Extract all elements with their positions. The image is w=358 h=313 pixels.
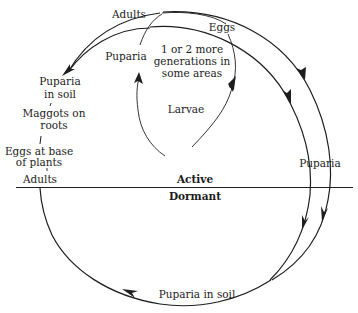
label-puparia-right: Puparia [299,157,340,169]
life-cycle-diagram: Active Dormant Adults Eggs Puparia Larva… [0,0,358,313]
label-puparia-in-soil-bottom: Puparia in soil [159,288,236,300]
active-label: Active [176,173,213,185]
label-eggs-at-base-2: of plants [16,156,62,168]
arrow-head-icon [296,67,306,80]
label-maggots-on-roots-1: Maggots on [23,107,86,119]
connector-tick [50,103,51,106]
label-adults-top: Adults [111,8,146,20]
label-eggs: Eggs [209,21,236,33]
inner-cycle-arc-larvae-to-puparia [137,78,165,156]
arrow-head-icon [228,76,236,92]
label-adults-left: Adults [22,173,57,185]
dormant-return-arc [40,188,271,306]
arrow-head-icon [321,206,328,222]
label-puparia-inner: Puparia [105,50,146,62]
label-larvae: Larvae [168,103,205,115]
label-puparia-in-soil-left-2: in soil [44,88,77,100]
arrow-head-icon [282,89,291,104]
label-puparia-in-soil-left-1: Puparia [39,75,80,87]
connector-tick [40,136,41,144]
dormant-label: Dormant [169,190,221,202]
curve-to-puparia-in-soil-1 [68,13,160,72]
label-maggots-on-roots-2: roots [40,119,67,131]
label-generations-line2: generations in [154,55,231,67]
label-generations-line1: 1 or 2 more [161,43,223,55]
label-generations-line3: some areas [162,67,222,79]
